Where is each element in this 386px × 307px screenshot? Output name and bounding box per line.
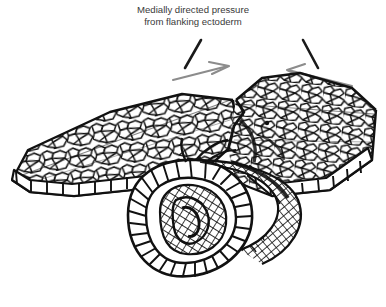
annotation-line-1: Medially directed pressure [137,4,249,15]
annotation-line-2: from flanking ectoderm [144,16,242,27]
right-sheet-nucleus-dot [265,121,269,125]
figure-root: Medially directed pressure from flanking… [0,0,386,307]
annotation-label: Medially directed pressure from flanking… [137,4,249,27]
neural-tube-formation-diagram: Medially directed pressure from flanking… [0,0,386,307]
